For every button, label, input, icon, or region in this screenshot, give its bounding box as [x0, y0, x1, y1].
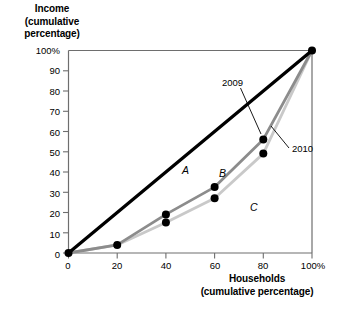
- leader-line-2010: [271, 126, 289, 148]
- marker-2009-60: [211, 183, 219, 191]
- marker-corner-100: [308, 47, 316, 55]
- region-label-c: C: [250, 202, 258, 213]
- plot-area: [0, 0, 338, 312]
- marker-2009-40: [162, 210, 170, 218]
- marker-2009-20: [113, 241, 121, 249]
- marker-origin: [65, 249, 73, 257]
- y-axis-ticks: [63, 71, 69, 253]
- lorenz-curve-chart: Income (cumulative percentage) Household…: [0, 0, 338, 312]
- marker-2010-40: [162, 219, 170, 227]
- annotation-2010: 2010: [292, 144, 313, 154]
- marker-2010-60: [211, 194, 219, 202]
- marker-2009-80: [259, 135, 267, 143]
- region-label-b: B: [219, 168, 226, 179]
- line-of-equality: [69, 51, 313, 254]
- x-axis-ticks: [69, 253, 313, 259]
- marker-2010-80: [259, 150, 267, 158]
- annotation-2009: 2009: [222, 78, 243, 88]
- region-label-a: A: [182, 165, 189, 176]
